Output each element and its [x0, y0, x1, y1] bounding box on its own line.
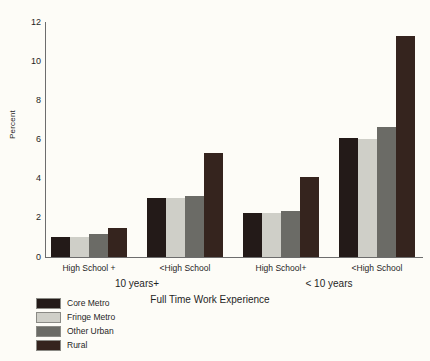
- bar: [204, 153, 223, 257]
- bar: [51, 237, 70, 257]
- bar: [70, 237, 89, 257]
- legend-label: Fringe Metro: [67, 312, 115, 322]
- x-axis-line: [45, 257, 423, 258]
- legend-swatch-icon: [36, 340, 61, 351]
- bar-group: [243, 22, 319, 257]
- y-axis-label: Percent: [8, 95, 17, 155]
- legend-label: Other Urban: [67, 326, 114, 336]
- legend-swatch-icon: [36, 312, 61, 323]
- bar: [396, 36, 415, 257]
- x-category-label: <High School: [332, 263, 422, 273]
- bar-group: [147, 22, 223, 257]
- bar: [281, 211, 300, 257]
- y-axis-ticks: 024681012: [0, 0, 41, 361]
- x-group-label: 10 years+: [77, 278, 197, 289]
- x-axis-title: Full Time Work Experience: [115, 294, 305, 305]
- legend-item: Other Urban: [36, 324, 115, 338]
- bar: [243, 213, 262, 257]
- legend-item: Rural: [36, 338, 115, 352]
- bar: [185, 196, 204, 257]
- y-tick-label: 12: [3, 18, 41, 27]
- y-tick-label: 0: [3, 253, 41, 262]
- bar: [89, 234, 108, 257]
- x-category-label: <High School: [140, 263, 230, 273]
- legend-swatch-icon: [36, 326, 61, 337]
- bar: [339, 138, 358, 257]
- bar: [300, 177, 319, 257]
- bar: [358, 139, 377, 257]
- y-tick-label: 2: [3, 213, 41, 222]
- plot-area: [45, 22, 423, 257]
- legend: Core MetroFringe MetroOther UrbanRural: [36, 296, 115, 352]
- bar: [147, 198, 166, 257]
- legend-item: Fringe Metro: [36, 310, 115, 324]
- bar: [262, 213, 281, 257]
- bar: [108, 228, 127, 257]
- x-category-label: High School +: [44, 263, 134, 273]
- y-tick-label: 10: [3, 57, 41, 66]
- bar-group: [51, 22, 127, 257]
- x-group-label: < 10 years: [269, 278, 389, 289]
- legend-label: Core Metro: [67, 298, 110, 308]
- legend-label: Rural: [67, 340, 87, 350]
- bar: [166, 198, 185, 257]
- bar-chart: 024681012 Percent High School +<High Sch…: [0, 0, 430, 361]
- legend-swatch-icon: [36, 298, 61, 309]
- bar: [377, 127, 396, 257]
- bar-group: [339, 22, 415, 257]
- y-tick-label: 4: [3, 174, 41, 183]
- x-category-label: High School+: [236, 263, 326, 273]
- legend-item: Core Metro: [36, 296, 115, 310]
